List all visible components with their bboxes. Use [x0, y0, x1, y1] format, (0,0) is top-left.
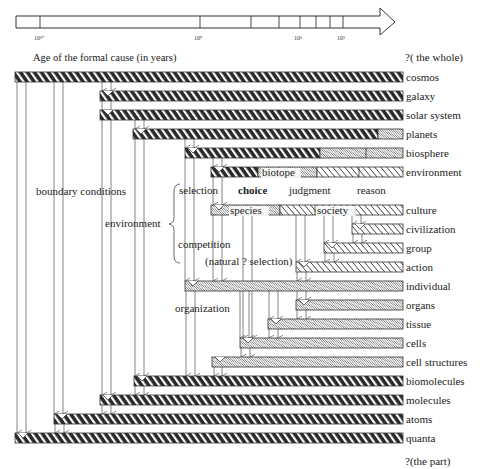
- row-label: individual: [406, 280, 451, 292]
- row-cosmos: cosmos: [15, 71, 439, 83]
- row-label: biosphere: [406, 147, 449, 159]
- row-molecules: molecules: [100, 394, 451, 406]
- environment-annotation: environment: [105, 217, 161, 229]
- row-biomolecules: biomolecules: [134, 375, 465, 387]
- row-quanta: quanta: [15, 432, 435, 444]
- biotope-label: biotope: [262, 166, 295, 178]
- bar-segment: [134, 376, 403, 386]
- organization-label: organization: [175, 302, 230, 314]
- part-label: ?(the part): [405, 455, 451, 468]
- row-label: planets: [406, 128, 437, 140]
- bar-segment: [100, 110, 403, 120]
- axis-tick-label: 10³: [337, 35, 345, 41]
- row-label: cell structures: [406, 356, 467, 368]
- species-label: species: [230, 204, 262, 216]
- bar-segment: [185, 148, 320, 158]
- bar-segment: [133, 129, 378, 139]
- bar-segment: [296, 262, 403, 272]
- boundary-conditions-label: boundary conditions: [36, 185, 126, 197]
- natural-selection-label: (natural ? selection): [205, 255, 293, 268]
- bar-segment: [100, 91, 403, 101]
- row-solar-system: solar system: [100, 109, 461, 121]
- row-individual: individual: [185, 280, 451, 292]
- axis-tick-label: 10¹⁰: [34, 35, 45, 41]
- row-label: action: [406, 261, 433, 273]
- axis-tick-label: 10⁶: [294, 35, 302, 41]
- row-label: solar system: [406, 109, 461, 121]
- row-label: galaxy: [406, 90, 436, 102]
- row-biosphere: biosphere: [185, 147, 449, 159]
- axis-caption: Age of the formal cause (in years): [33, 52, 177, 64]
- row-planets: planets: [133, 128, 437, 140]
- row-label: tissue: [406, 318, 431, 330]
- bar-segment: [240, 338, 403, 348]
- row-tissue: tissue: [268, 318, 431, 330]
- bar-segment: [100, 395, 403, 405]
- row-label: biomolecules: [406, 375, 465, 387]
- row-label: quanta: [406, 432, 435, 444]
- row-label: cosmos: [406, 71, 439, 83]
- selection-label: selection: [179, 184, 219, 196]
- bar-segment: [268, 319, 403, 329]
- society-label: society: [317, 204, 349, 216]
- bar-segment: [15, 433, 403, 443]
- choice-label: choice: [238, 184, 267, 196]
- reason-label: reason: [357, 184, 386, 196]
- diagram-canvas: 10¹⁰10⁹10⁶10³ Age of the formal cause (i…: [0, 0, 480, 469]
- time-axis-arrow: [16, 8, 395, 35]
- row-galaxy: galaxy: [100, 90, 436, 102]
- bar-segment: [185, 281, 403, 291]
- row-label: group: [406, 242, 432, 254]
- row-action: action: [296, 261, 433, 273]
- bar-segment: [296, 300, 403, 310]
- bar-segment: [54, 414, 403, 424]
- row-cell-structures: cell structures: [212, 356, 467, 368]
- row-label: culture: [406, 204, 437, 216]
- bar-segment: [378, 129, 403, 139]
- judgment-label: judgment: [288, 184, 331, 196]
- time-axis: 10¹⁰10⁹10⁶10³ Age of the formal cause (i…: [16, 8, 463, 64]
- row-organs: organs: [296, 299, 435, 311]
- row-group: group: [324, 242, 432, 254]
- row-label: civilization: [406, 223, 456, 235]
- axis-tick-label: 10⁹: [194, 35, 202, 41]
- row-label: environment: [406, 166, 462, 178]
- bar-segment: [320, 148, 403, 158]
- row-label: organs: [406, 299, 435, 311]
- row-label: cells: [406, 337, 426, 349]
- bar-segment: [212, 357, 403, 367]
- bar-segment: [15, 72, 403, 82]
- competition-label: competition: [178, 238, 231, 250]
- row-label: molecules: [406, 394, 451, 406]
- row-atoms: atoms: [54, 413, 432, 425]
- bar-segment: [317, 167, 403, 177]
- row-environment: environment: [211, 166, 462, 178]
- whole-label: ?( the whole): [405, 51, 463, 64]
- row-cells: cells: [240, 337, 426, 349]
- row-label: atoms: [406, 413, 432, 425]
- row-civilization: civilization: [352, 223, 456, 235]
